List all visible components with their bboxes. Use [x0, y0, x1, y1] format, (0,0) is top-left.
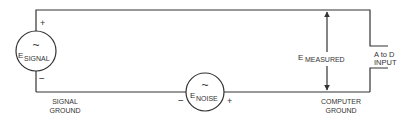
ground-loop-circuit-diagram: ~ E SIGNAL + − ~ E NOISE − + E MEASURED …	[0, 0, 404, 124]
measured-label-e: E	[298, 53, 303, 62]
ac-tilde-icon: ~	[32, 38, 39, 52]
signal-label-sub: SIGNAL	[24, 55, 50, 62]
signal-label-e: E	[18, 51, 23, 60]
noise-source: ~ E NOISE − +	[178, 73, 232, 111]
adc-label-line2: INPUT	[374, 58, 397, 67]
computer-ground-line2: GROUND	[325, 107, 356, 114]
signal-ground-line2: GROUND	[49, 107, 80, 114]
adc-lower-wire	[370, 68, 388, 92]
noise-label-e: E	[190, 91, 195, 100]
noise-label-sub: NOISE	[196, 95, 218, 102]
computer-ground-line1: COMPUTER	[321, 98, 361, 105]
noise-minus: −	[178, 95, 184, 106]
measured-label-sub: MEASURED	[305, 56, 345, 63]
signal-plus: +	[40, 18, 45, 28]
ac-tilde-icon: ~	[201, 78, 208, 92]
signal-ground-line1: SIGNAL	[52, 98, 78, 105]
top-wire	[36, 10, 388, 46]
signal-minus: −	[39, 73, 45, 84]
noise-plus: +	[227, 96, 232, 106]
